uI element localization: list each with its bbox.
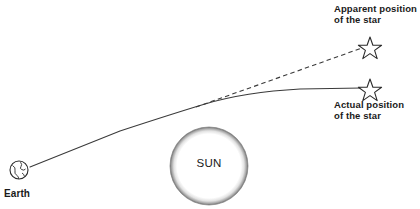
earth-label: Earth xyxy=(4,188,30,199)
star-outline-icon-actual xyxy=(358,79,381,101)
apparent-position-label-line2: of the star xyxy=(334,14,417,25)
apparent-position-label-line1: Apparent position xyxy=(334,3,417,14)
actual-position-label-line1: Actual position xyxy=(334,99,404,110)
actual-position-label: Actual position of the star xyxy=(334,99,404,121)
earth-globe-icon xyxy=(10,161,28,179)
sun-label: SUN xyxy=(170,157,248,169)
lensing-diagram: Apparent position of the star Actual pos… xyxy=(0,0,420,209)
apparent-position-label: Apparent position of the star xyxy=(334,3,417,25)
actual-position-label-line2: of the star xyxy=(334,110,404,121)
star-outline-icon-apparent xyxy=(358,37,381,59)
